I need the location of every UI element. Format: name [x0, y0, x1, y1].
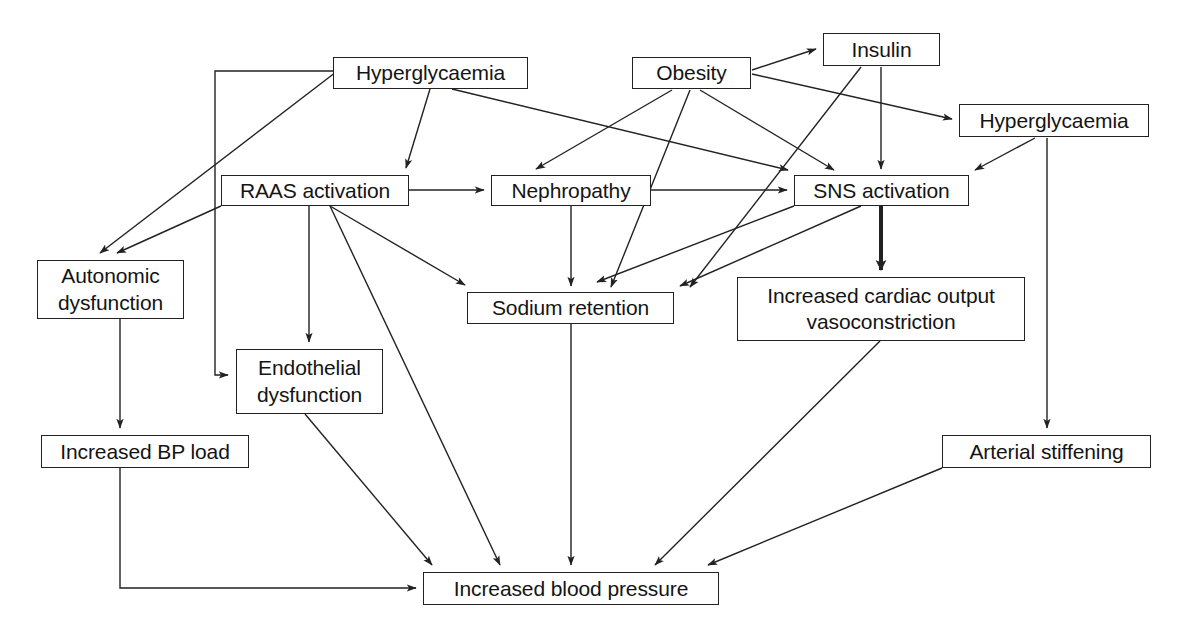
node-increased_blood_pressure: Increased blood pressure	[423, 572, 719, 605]
edge-sns_activation-to-sodium_retention	[680, 206, 861, 286]
node-obesity: Obesity	[632, 57, 751, 89]
node-endothelial_dysfunction: Endothelial dysfunction	[236, 349, 383, 414]
node-arterial_stiffening: Arterial stiffening	[942, 435, 1151, 468]
edge-hyperglycaemia_right-to-sns_activation	[975, 138, 1035, 170]
flowchart-canvas: HyperglycaemiaObesityInsulinHyperglycaem…	[0, 0, 1188, 633]
edge-hyperglycaemia_left-to-autonomic_dysfunction	[100, 72, 336, 253]
edge-hyperglycaemia_left-to-endothelial_dysfunction	[215, 71, 333, 375]
edge-raas_activation-to-sodium_retention	[330, 206, 465, 285]
edge-sns_activation-to-nephropathy_area	[597, 206, 794, 282]
node-sodium_retention: Sodium retention	[467, 292, 674, 324]
edge-arterial_stiffening-to-increased_blood_pressure	[708, 468, 942, 565]
edge-increased_cardiac_output-to-increased_blood_pressure	[655, 341, 880, 565]
edge-hyperglycaemia_left-to-sns_activation	[452, 89, 788, 170]
edge-obesity-to-insulin	[752, 49, 816, 70]
node-hyperglycaemia_left: Hyperglycaemia	[333, 57, 528, 89]
node-autonomic_dysfunction: Autonomic dysfunction	[37, 260, 184, 319]
node-nephropathy: Nephropathy	[491, 175, 651, 206]
edge-raas_activation-to-autonomic_dysfunction	[117, 206, 221, 253]
edge-obesity-to-hyperglycaemia_right	[752, 74, 952, 119]
edge-endothelial_dysfunction-to-increased_blood_pressure	[305, 414, 432, 565]
edge-hyperglycaemia_left-to-raas_activation	[406, 89, 430, 168]
node-sns_activation: SNS activation	[794, 175, 969, 206]
node-increased_cardiac_output: Increased cardiac output vasoconstrictio…	[737, 277, 1025, 341]
node-hyperglycaemia_right: Hyperglycaemia	[959, 104, 1149, 137]
edge-increased_bp_load-to-increased_blood_pressure	[120, 468, 416, 588]
edge-obesity-to-raas_activation	[536, 90, 672, 169]
node-raas_activation: RAAS activation	[221, 175, 409, 206]
node-insulin: Insulin	[823, 33, 940, 66]
edge-obesity-to-sns_activation	[700, 90, 834, 170]
node-increased_bp_load: Increased BP load	[41, 435, 249, 468]
